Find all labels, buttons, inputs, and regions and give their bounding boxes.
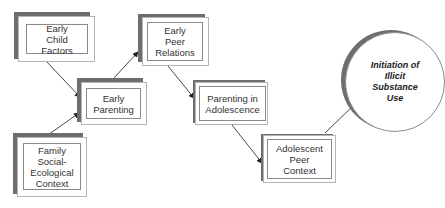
box-label: Early Parenting — [86, 88, 141, 119]
box-label: Adolescent Peer Context — [267, 139, 332, 179]
arrow-adolescence-to-adolpeer — [232, 125, 262, 163]
box-label: Early Peer Relations — [147, 22, 203, 61]
arrow-parenting-to-peer — [113, 52, 138, 79]
arrow-peer-to-adolescence — [168, 66, 194, 98]
circle-label: Initiation of Illicit Substance Use — [345, 32, 445, 132]
box-label: Family Social-Ecological Context — [23, 143, 81, 190]
arrow-child-to-parenting — [47, 62, 80, 97]
box-label: Early Child Factors — [26, 24, 88, 54]
box-label: Parenting in Adolescence — [199, 86, 266, 121]
